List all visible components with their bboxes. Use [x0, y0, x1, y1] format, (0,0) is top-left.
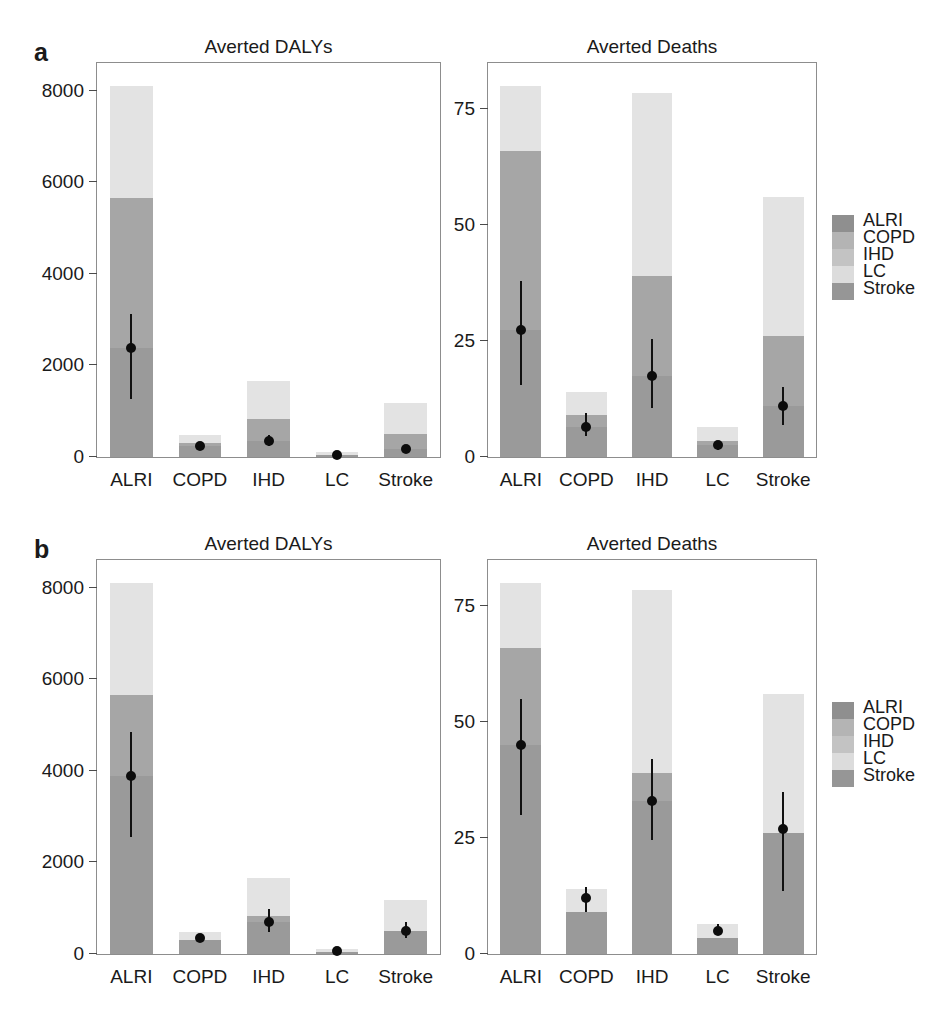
y-axis-tick-label: 6000: [42, 668, 97, 690]
point-estimate-marker: [264, 917, 274, 927]
plot-box: 0255075ALRICOPDIHDLCStroke: [487, 559, 817, 955]
x-axis-label-ihd: IHD: [252, 469, 285, 491]
y-axis-tick-label: 25: [454, 330, 488, 352]
legend-swatch-copd: [832, 232, 854, 249]
plot-box: 02000400060008000ALRICOPDIHDLCStroke: [96, 62, 441, 458]
x-axis-label-alri: ALRI: [110, 469, 152, 491]
y-axis-tick-label: 25: [454, 827, 488, 849]
x-axis-label-ihd: IHD: [252, 966, 285, 988]
subplot-a-averted-dalys: Averted DALYs 02000400060008000ALRICOPDI…: [96, 10, 441, 490]
point-estimate-marker: [264, 436, 274, 446]
legend-swatch-stroke: [832, 770, 854, 787]
bar-segment-upper: [110, 583, 153, 695]
error-bar-line: [520, 699, 522, 815]
point-estimate-marker: [401, 926, 411, 936]
legend-labels: ALRICOPDIHDLCStroke: [863, 699, 915, 784]
bar-segment-upper: [110, 86, 153, 198]
subplot-b-averted-deaths: Averted Deaths 0255075ALRICOPDIHDLCStrok…: [487, 507, 817, 987]
bar-alri: [500, 86, 541, 457]
legend-swatch-stroke: [832, 283, 854, 300]
error-bar-line: [130, 314, 132, 399]
x-axis-label-stroke: Stroke: [378, 469, 433, 491]
bar-segment-upper: [247, 381, 290, 419]
plot-area: 02000400060008000ALRICOPDIHDLCStroke: [97, 63, 440, 457]
x-axis-label-ihd: IHD: [636, 469, 669, 491]
y-axis-tick-label: 75: [454, 98, 488, 120]
point-estimate-marker: [647, 371, 657, 381]
x-axis-label-ihd: IHD: [636, 966, 669, 988]
subplot-b-averted-dalys: Averted DALYs 02000400060008000ALRICOPDI…: [96, 507, 441, 987]
point-estimate-marker: [647, 796, 657, 806]
bar-segment-upper: [632, 590, 673, 773]
bar-alri: [110, 86, 153, 457]
y-axis-tick-label: 75: [454, 595, 488, 617]
x-axis-label-copd: COPD: [559, 966, 614, 988]
subplot-title: Averted Deaths: [487, 533, 817, 555]
subplot-a-averted-deaths: Averted Deaths 0255075ALRICOPDIHDLCStrok…: [487, 10, 817, 490]
y-axis-tick-label: 2000: [42, 354, 97, 376]
bar-segment-below-estimate: [566, 912, 607, 954]
x-axis-label-lc: LC: [705, 469, 729, 491]
legend-color-strip: [832, 215, 854, 300]
x-axis-label-stroke: Stroke: [378, 966, 433, 988]
subplot-title: Averted DALYs: [96, 36, 441, 58]
panel-b: b Averted DALYs 02000400060008000ALRICOP…: [0, 507, 933, 1004]
bar-segment-upper: [500, 86, 541, 151]
point-estimate-marker: [401, 444, 411, 454]
legend-swatch-lc: [832, 266, 854, 283]
x-axis-label-stroke: Stroke: [756, 469, 811, 491]
point-estimate-marker: [516, 325, 526, 335]
point-estimate-marker: [713, 440, 723, 450]
legend-labels: ALRICOPDIHDLCStroke: [863, 212, 915, 297]
bar-segment-upper: [697, 427, 738, 441]
y-axis-tick-label: 0: [464, 943, 488, 965]
error-bar-line: [782, 792, 784, 892]
x-axis-label-copd: COPD: [172, 966, 227, 988]
plot-box: 02000400060008000ALRICOPDIHDLCStroke: [96, 559, 441, 955]
y-axis-tick-label: 6000: [42, 171, 97, 193]
x-axis-label-alri: ALRI: [500, 966, 542, 988]
y-axis-tick-label: 8000: [42, 577, 97, 599]
panel-a: a Averted DALYs 02000400060008000ALRICOP…: [0, 10, 933, 507]
legend-swatch-alri: [832, 215, 854, 232]
plot-area: 02000400060008000ALRICOPDIHDLCStroke: [97, 560, 440, 954]
error-bar-line: [130, 732, 132, 837]
legend-color-strip: [832, 702, 854, 787]
point-estimate-marker: [778, 824, 788, 834]
y-axis-tick-label: 4000: [42, 263, 97, 285]
y-axis-tick-label: 8000: [42, 80, 97, 102]
point-estimate-marker: [332, 946, 342, 956]
y-axis-tick-label: 0: [73, 943, 97, 965]
y-axis-tick-label: 50: [454, 711, 488, 733]
subplot-title: Averted Deaths: [487, 36, 817, 58]
plot-area: 0255075ALRICOPDIHDLCStroke: [488, 560, 816, 954]
x-axis-label-stroke: Stroke: [756, 966, 811, 988]
legend-swatch-lc: [832, 753, 854, 770]
legend-label-stroke: Stroke: [863, 767, 915, 784]
subplot-title: Averted DALYs: [96, 533, 441, 555]
bar-segment-upper: [632, 93, 673, 276]
y-axis-tick-label: 0: [464, 446, 488, 468]
y-axis-tick-label: 50: [454, 214, 488, 236]
panel-letter-b: b: [34, 535, 49, 564]
x-axis-label-lc: LC: [705, 966, 729, 988]
legend-swatch-ihd: [832, 249, 854, 266]
point-estimate-marker: [713, 926, 723, 936]
x-axis-label-lc: LC: [325, 469, 349, 491]
x-axis-label-alri: ALRI: [110, 966, 152, 988]
bar-segment-upper: [763, 197, 804, 336]
legend-swatch-alri: [832, 702, 854, 719]
x-axis-label-copd: COPD: [559, 469, 614, 491]
plot-box: 0255075ALRICOPDIHDLCStroke: [487, 62, 817, 458]
bar-segment-upper: [500, 583, 541, 648]
bar-segment-upper: [384, 403, 427, 434]
figure-root: a Averted DALYs 02000400060008000ALRICOP…: [0, 0, 933, 1014]
panel-letter-a: a: [34, 38, 48, 67]
y-axis-tick-label: 4000: [42, 760, 97, 782]
legend-swatch-ihd: [832, 736, 854, 753]
y-axis-tick-label: 0: [73, 446, 97, 468]
x-axis-label-copd: COPD: [172, 469, 227, 491]
x-axis-label-lc: LC: [325, 966, 349, 988]
legend-label-stroke: Stroke: [863, 280, 915, 297]
bar-segment-upper: [566, 392, 607, 415]
